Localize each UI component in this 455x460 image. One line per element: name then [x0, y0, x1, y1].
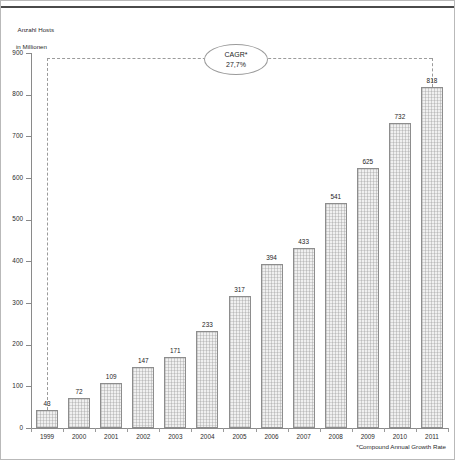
bar-value-label: 147: [127, 358, 159, 364]
y-axis-tick-label: 800: [1, 91, 23, 97]
cagr-label: CAGR*: [225, 50, 248, 60]
bar-value-label: 171: [159, 348, 191, 354]
bar: [36, 410, 58, 428]
bar: [325, 203, 347, 428]
bar-value-label: 818: [416, 78, 448, 84]
bar-value-label: 233: [191, 322, 223, 328]
y-axis-tick: [26, 345, 32, 346]
x-axis-tick: [320, 428, 321, 432]
x-axis-tick: [352, 428, 353, 432]
bar: [68, 398, 90, 428]
x-axis-tick: [416, 428, 417, 432]
y-axis-tick-label: 600: [1, 175, 23, 181]
y-axis-tick: [26, 261, 32, 262]
x-axis-tick: [256, 428, 257, 432]
x-axis-tick: [127, 428, 128, 432]
bar: [389, 123, 411, 428]
y-axis-tick-label: 200: [1, 341, 23, 347]
x-axis-line: [31, 428, 448, 429]
y-axis-tick-label: 900: [1, 50, 23, 56]
bar-value-label: 433: [288, 239, 320, 245]
bar-value-label: 625: [352, 159, 384, 165]
x-axis-tick-label: 2011: [416, 434, 448, 440]
x-axis-tick-label: 2003: [159, 434, 191, 440]
x-axis-tick-label: 2000: [63, 434, 95, 440]
x-axis-tick-label: 2007: [288, 434, 320, 440]
x-axis-tick: [288, 428, 289, 432]
x-axis-tick: [31, 428, 32, 432]
x-axis-tick-label: 2002: [127, 434, 159, 440]
y-axis-tick-label: 100: [1, 383, 23, 389]
cagr-callout: CAGR* 27,7%: [204, 44, 268, 75]
y-axis-tick-label: 400: [1, 258, 23, 264]
bar-value-label: 109: [95, 374, 127, 380]
x-axis-tick: [448, 428, 449, 432]
x-axis-tick: [63, 428, 64, 432]
bar-value-label: 394: [256, 255, 288, 261]
x-axis-tick-label: 1999: [31, 434, 63, 440]
y-axis-line: [31, 53, 32, 429]
x-axis-tick: [191, 428, 192, 432]
cagr-line-start: [47, 58, 48, 410]
x-axis-tick-label: 2005: [224, 434, 256, 440]
x-axis-tick: [223, 428, 224, 432]
bar-value-label: 732: [384, 114, 416, 120]
y-axis-tick: [26, 136, 32, 137]
bar: [100, 383, 122, 428]
y-axis-tick: [26, 220, 32, 221]
bar-value-label: 43: [31, 401, 63, 407]
x-axis-tick-label: 2006: [256, 434, 288, 440]
chart-page: Anzahl Hosts in Millionen 01002003004005…: [0, 0, 455, 460]
bar: [421, 87, 443, 428]
x-axis-tick-label: 2009: [352, 434, 384, 440]
bar: [196, 331, 218, 428]
y-axis-tick-label: 500: [1, 216, 23, 222]
x-axis-tick-label: 2001: [95, 434, 127, 440]
y-axis-tick-label: 300: [1, 300, 23, 306]
cagr-value: 27,7%: [226, 60, 246, 70]
y-axis-tick: [26, 53, 32, 54]
bar-value-label: 317: [224, 287, 256, 293]
bar: [132, 367, 154, 428]
x-axis-tick-label: 2004: [191, 434, 223, 440]
bar-value-label: 72: [63, 389, 95, 395]
y-axis-tick: [26, 178, 32, 179]
bar: [164, 357, 186, 428]
x-axis-tick-label: 2010: [384, 434, 416, 440]
bar-value-label: 541: [320, 194, 352, 200]
bar: [229, 296, 251, 428]
y-axis-tick: [26, 95, 32, 96]
footnote: *Compound Annual Growth Rate: [356, 444, 446, 450]
y-axis-tick: [26, 303, 32, 304]
y-axis-tick: [26, 386, 32, 387]
x-axis-tick-label: 2008: [320, 434, 352, 440]
x-axis-tick: [159, 428, 160, 432]
bar: [293, 248, 315, 428]
y-axis-tick-label: 700: [1, 133, 23, 139]
y-axis-tick-label: 0: [1, 425, 23, 431]
bar: [357, 168, 379, 428]
bar: [261, 264, 283, 428]
x-axis-tick: [95, 428, 96, 432]
plot-area: 0100200300400500600700800900 19992000200…: [1, 1, 455, 460]
x-axis-tick: [384, 428, 385, 432]
